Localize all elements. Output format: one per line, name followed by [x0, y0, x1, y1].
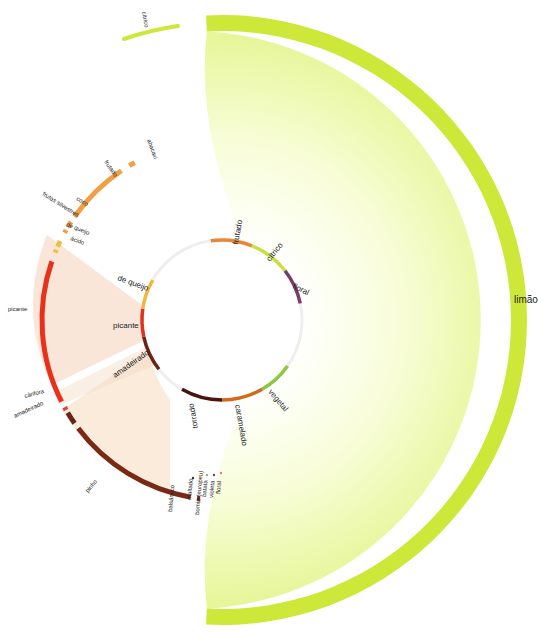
dot-maltado	[192, 477, 194, 479]
outer-segment-cânfora[interactable]	[65, 407, 67, 410]
label-outer-pinho: pinho	[84, 478, 98, 494]
outer-segment-frutado[interactable]	[75, 171, 122, 217]
outer-segment-ácido[interactable]	[55, 250, 56, 253]
citrico-top-bar[interactable]	[124, 26, 178, 39]
label-inner-picante: picante	[113, 321, 139, 330]
label-limao: limão	[514, 294, 538, 305]
outer-segment-abacaxi[interactable]	[129, 163, 134, 166]
label-maltado: maltado	[186, 478, 194, 500]
label-outer-canfora: cânfora	[24, 388, 46, 399]
label-outer-de-queijo: de queijo	[66, 221, 91, 236]
label-inner-torrado: torrado	[187, 402, 200, 429]
label-outer-amadeirado: amadeirado	[13, 400, 45, 419]
label-outer-picante: picante	[8, 306, 28, 312]
dot-violeta	[213, 474, 215, 476]
label-outer-balsamico: balsâmico	[167, 484, 175, 512]
label-outer-acido: ácido	[70, 235, 86, 246]
limao-sector	[205, 15, 527, 625]
dot-floral	[220, 472, 222, 474]
label-floral-small: floral	[215, 481, 222, 494]
dot-bomto	[199, 475, 201, 477]
label-outer-abacaxi: abacaxi	[146, 138, 159, 159]
inner-segment-picante[interactable]	[142, 309, 144, 337]
flavor-wheel-diagram: cítrico frutado cítrico floral vegetal c…	[0, 0, 557, 632]
label-outer-frutas-silvestres: frutas silvestres	[41, 191, 80, 218]
inner-segment-torrado[interactable]	[182, 389, 222, 400]
dot-batata	[206, 474, 208, 476]
outer-segment-frutas-silvestres[interactable]	[65, 230, 67, 233]
outer-segment-de-queijo[interactable]	[58, 241, 61, 247]
label-citrico-top: cítrico	[141, 11, 150, 28]
